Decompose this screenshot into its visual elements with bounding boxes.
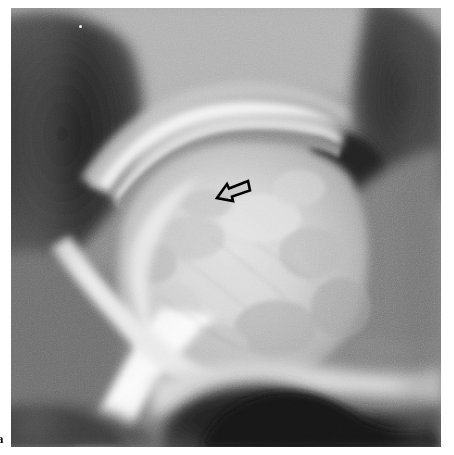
radiograph-figure: a [0, 0, 454, 455]
radiograph-image [11, 8, 441, 447]
emulsion-speck [79, 25, 82, 28]
radiograph-plate [11, 8, 441, 447]
figure-part-label: a [0, 432, 9, 446]
